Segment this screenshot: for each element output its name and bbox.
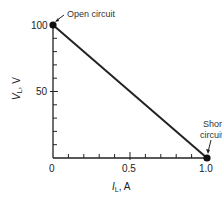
load-line (53, 25, 207, 158)
tick-y-50: 50 (36, 86, 48, 97)
x-axis-label: IL, A (112, 181, 131, 193)
short-circuit-point (203, 154, 210, 161)
tick-x-10: 1.0 (199, 163, 213, 174)
y-axis-label: VL, V (11, 77, 23, 100)
tick-y-100: 100 (31, 20, 48, 31)
x-ticks (68, 152, 191, 160)
tick-x-0: 0 (49, 163, 55, 174)
y-ticks (50, 38, 58, 144)
open-circuit-point (49, 21, 56, 28)
short-circuit-label-2: circuit (200, 130, 222, 140)
short-circuit-arrowhead (206, 149, 210, 154)
load-line-chart: Open circuit Short circuit 100 50 0 0.5 … (0, 0, 222, 204)
short-circuit-label-1: Short (203, 119, 222, 129)
open-circuit-label: Open circuit (67, 9, 116, 19)
tick-x-05: 0.5 (122, 163, 136, 174)
